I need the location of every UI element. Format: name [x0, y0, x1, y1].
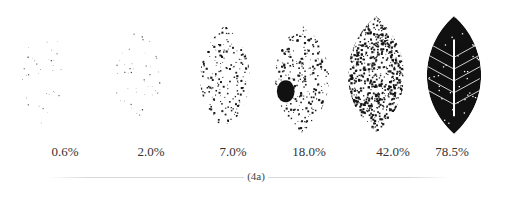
- severity-label-4: 18.0%: [292, 144, 326, 160]
- leaf-panel-6: [419, 16, 481, 134]
- severity-label-2: 2.0%: [137, 144, 164, 160]
- severity-label-3: 7.0%: [219, 144, 246, 160]
- leaf-severity-figure: 0.6%2.0%7.0%18.0%42.0%78.5% (4a): [0, 0, 512, 207]
- leaf-panel-3: [193, 27, 256, 124]
- leaf-panel-2: [105, 34, 171, 116]
- leaf-panel-5: [338, 16, 414, 132]
- leaf-panel-1: [17, 28, 62, 123]
- severity-label-6: 78.5%: [435, 144, 469, 160]
- severity-label-5: 42.0%: [376, 144, 410, 160]
- figure-caption: (4a): [244, 170, 268, 182]
- severity-label-1: 0.6%: [51, 144, 78, 160]
- leaf-panel-4: [266, 26, 338, 132]
